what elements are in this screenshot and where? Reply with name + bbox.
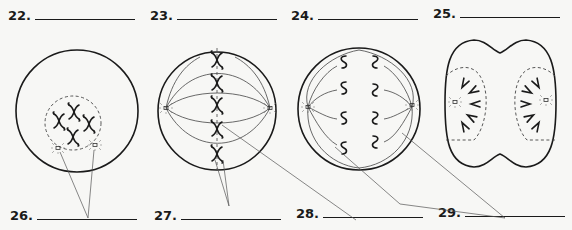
mitosis-diagram — [0, 0, 572, 230]
chromosome — [211, 145, 223, 163]
forming-nucleus — [515, 67, 555, 140]
chromosome — [524, 112, 535, 122]
chromatid — [373, 56, 378, 68]
leader-line — [215, 160, 229, 206]
cell-24-anaphase — [298, 48, 505, 218]
chromosome — [459, 78, 469, 89]
chromosome — [459, 121, 469, 132]
chromosome — [532, 121, 542, 132]
chromosome — [67, 128, 79, 146]
cell-membrane — [16, 50, 138, 172]
centriole-icon — [51, 143, 65, 154]
nuclear-envelope — [45, 96, 101, 150]
leader-line — [60, 152, 88, 218]
chromosome — [211, 74, 223, 92]
leader-line — [402, 133, 505, 218]
centriole-icon — [448, 97, 462, 108]
chromosome — [68, 103, 80, 121]
leader-line — [222, 125, 356, 220]
cell-membrane — [298, 48, 420, 170]
chromatid — [341, 142, 346, 154]
chromosome — [466, 112, 477, 122]
chromosome — [521, 101, 530, 107]
chromatid — [341, 56, 346, 68]
chromatid — [373, 84, 378, 96]
forming-nucleus — [446, 67, 486, 140]
chromosome — [522, 86, 533, 96]
chromosome — [471, 101, 480, 107]
chromatid — [341, 112, 346, 124]
centriole-icon — [88, 140, 102, 151]
chromatid — [341, 82, 346, 94]
chromatid — [373, 136, 378, 148]
cell-22-prophase — [16, 50, 138, 218]
chromosome — [83, 115, 95, 133]
cell-25-telophase — [445, 40, 556, 167]
chromosome — [53, 112, 65, 130]
leader-line — [335, 147, 400, 204]
cell-membrane — [445, 40, 556, 167]
chromosome — [532, 78, 542, 89]
spindle-fiber — [166, 108, 270, 123]
leader-line — [88, 150, 94, 218]
centriole-icon — [539, 95, 553, 106]
chromatid — [373, 112, 378, 124]
chromosome — [468, 86, 479, 96]
